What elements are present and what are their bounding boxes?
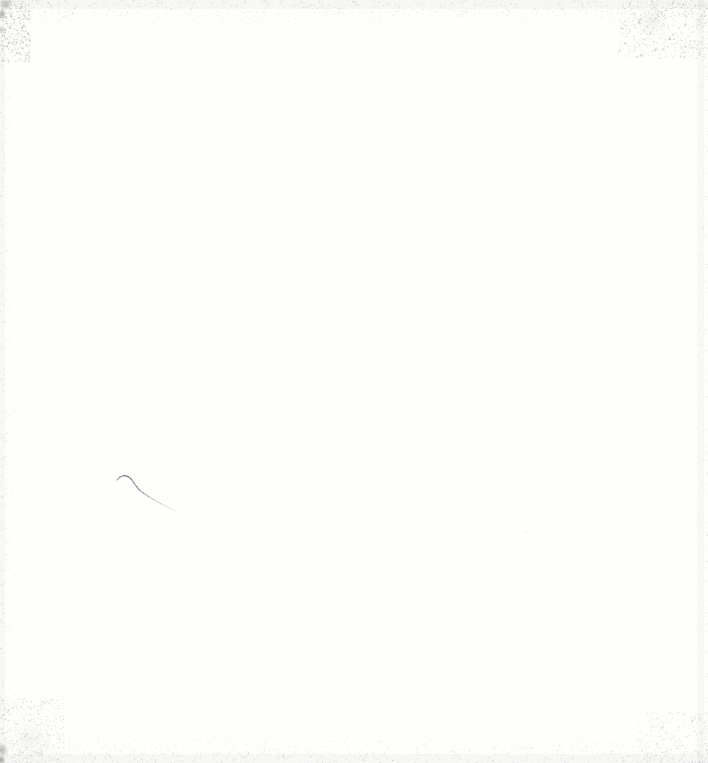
scanned-page: [0, 0, 708, 763]
scan-noise-texture: [0, 0, 708, 763]
